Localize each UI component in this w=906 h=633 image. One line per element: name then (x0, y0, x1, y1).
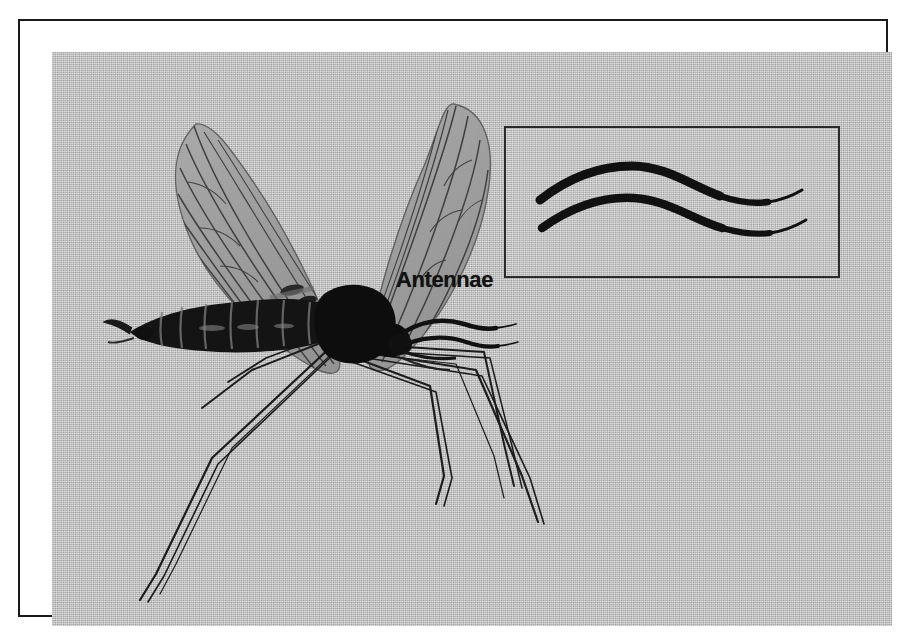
head (370, 323, 456, 370)
proboscis (404, 352, 456, 359)
antennae-magnified-inset (504, 126, 840, 278)
illustration-plate: Antennae (52, 52, 892, 626)
figure-frame: Antennae (18, 19, 888, 617)
inset-antenna-strokes (540, 166, 806, 234)
inset-antennae-drawing (506, 128, 838, 276)
abdomen (104, 299, 330, 352)
figure-root: Antennae (0, 0, 906, 633)
antennae-label: Antennae (396, 267, 493, 293)
antennae-on-specimen (404, 321, 518, 347)
